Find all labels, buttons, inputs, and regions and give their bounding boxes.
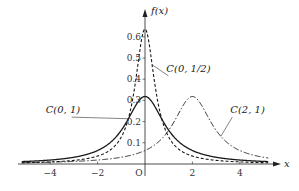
label-pointer	[221, 117, 232, 136]
labels-layer: C(0, 1)C(0, 1/2)C(2, 1)	[46, 63, 265, 137]
y-tick-label: 0.5	[127, 53, 142, 63]
label-pointer	[72, 117, 129, 119]
y-tick-label: 0.2	[127, 117, 141, 127]
x-axis-arrow-icon	[273, 162, 281, 167]
series-label: C(0, 1)	[46, 104, 81, 115]
x-tick-label: −4	[44, 168, 58, 178]
x-tick-label: −2	[91, 168, 104, 178]
y-axis-label: f(x)	[150, 5, 168, 16]
axes-layer: xf(x)−4−224O0.10.20.30.40.50.6	[18, 5, 290, 178]
y-tick-label: 0.4	[127, 74, 142, 84]
origin-label: O	[135, 168, 142, 178]
y-axis-arrow-icon	[143, 9, 148, 17]
y-tick-label: 0.6	[127, 32, 142, 42]
x-tick-label: 2	[190, 168, 196, 178]
x-tick-label: 4	[237, 168, 243, 178]
cauchy-density-chart: xf(x)−4−224O0.10.20.30.40.50.6 C(0, 1)C(…	[0, 0, 299, 191]
y-tick-label: 0.1	[127, 138, 141, 148]
x-axis-label: x	[284, 158, 290, 169]
series-label: C(2, 1)	[230, 104, 265, 115]
y-tick-label: 0.3	[127, 95, 142, 105]
series-label: C(0, 1/2)	[166, 63, 210, 74]
